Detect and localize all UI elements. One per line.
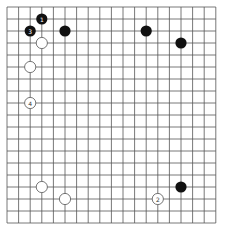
stone-circle (141, 25, 152, 36)
black-stone: 1 (36, 13, 47, 24)
black-stone (175, 37, 186, 48)
black-stone: 3 (25, 25, 36, 36)
move-number-label: 2 (156, 196, 160, 203)
white-stone: 4 (25, 97, 36, 108)
stone-circle (59, 25, 70, 36)
stone-circle (25, 61, 36, 72)
white-stone (25, 61, 36, 72)
move-number-label: 1 (40, 16, 44, 23)
stone-circle (36, 37, 47, 48)
white-stone: 2 (152, 193, 163, 204)
white-stone (36, 181, 47, 192)
move-number-label: 3 (28, 28, 32, 35)
black-stone (141, 25, 152, 36)
stone-circle (36, 181, 47, 192)
stone-circle (59, 193, 70, 204)
stones-layer: 1234 (25, 13, 187, 204)
stone-circle (175, 37, 186, 48)
black-stone (175, 181, 186, 192)
black-stone (59, 25, 70, 36)
white-stone (36, 37, 47, 48)
move-number-label: 4 (28, 100, 32, 107)
go-board: 1234 (0, 0, 225, 229)
white-stone (59, 193, 70, 204)
stone-circle (175, 181, 186, 192)
